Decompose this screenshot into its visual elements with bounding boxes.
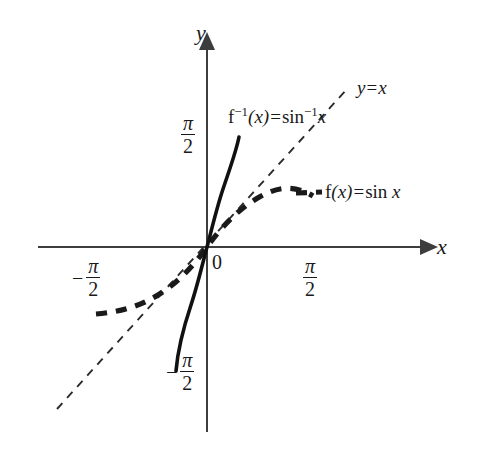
sine-label-rhs: sin <box>365 181 387 202</box>
arcsine-curve-label: f−1(x)=sin−1x <box>228 107 326 126</box>
x-tick-pi-over-2-fraction: π 2 <box>303 256 317 300</box>
arcsine-label-rhs: sin <box>282 106 304 127</box>
arcsine-label-argument: (x) <box>248 106 269 127</box>
x-tick-negative-pi-over-2: − π 2 <box>72 256 100 300</box>
y-tick-pi-over-2-fraction: π 2 <box>181 113 195 157</box>
y-tick-negative-pi-over-2-denominator: 2 <box>180 373 194 393</box>
plot-canvas <box>0 0 488 452</box>
arcsine-label-variable: x <box>318 106 326 127</box>
identity-line-label: y=x <box>357 78 387 97</box>
identity-line-y-equals-x <box>57 89 347 409</box>
sine-label-argument: (x) <box>331 181 352 202</box>
x-tick-negative-pi-over-2-fraction: π 2 <box>86 256 100 300</box>
y-tick-negative-pi-over-2-sign: − <box>166 362 177 382</box>
y-tick-negative-pi-over-2-fraction: π 2 <box>180 350 194 394</box>
x-tick-negative-pi-over-2-denominator: 2 <box>86 279 100 299</box>
inverse-sine-graph-figure: y x 0 π 2 − π 2 − π 2 π 2 <box>0 0 488 452</box>
x-tick-pi-over-2: π 2 <box>300 256 317 300</box>
arcsine-label-equals: = <box>269 106 282 127</box>
x-tick-pi-over-2-numerator: π <box>303 256 317 276</box>
y-tick-negative-pi-over-2-numerator: π <box>180 350 194 370</box>
sine-label-variable: x <box>392 181 400 202</box>
x-tick-negative-pi-over-2-sign: − <box>72 268 83 288</box>
sine-label-equals: = <box>352 181 365 202</box>
y-tick-pi-over-2-numerator: π <box>181 113 195 133</box>
x-tick-negative-pi-over-2-numerator: π <box>86 256 100 276</box>
identity-label-rhs: x <box>378 77 386 98</box>
sine-label-leader <box>296 192 322 193</box>
x-axis-label: x <box>437 236 447 258</box>
arcsine-label-superscript-2: −1 <box>304 104 318 119</box>
sine-curve-label: f(x)=sin x <box>325 182 401 201</box>
y-tick-pi-over-2-denominator: 2 <box>181 136 195 156</box>
origin-label: 0 <box>212 252 222 272</box>
identity-label-equals: = <box>365 77 378 98</box>
y-tick-negative-pi-over-2: − π 2 <box>166 350 194 394</box>
x-tick-pi-over-2-denominator: 2 <box>303 279 317 299</box>
y-axis-label: y <box>196 22 206 44</box>
y-tick-pi-over-2: π 2 <box>178 113 195 157</box>
arcsine-label-superscript-1: −1 <box>234 104 248 119</box>
